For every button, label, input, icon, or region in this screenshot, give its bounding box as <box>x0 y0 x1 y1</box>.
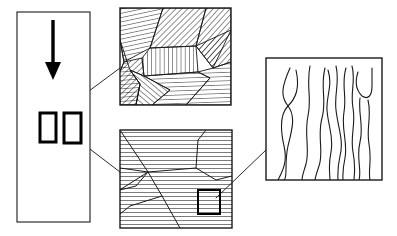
dislocation-panel-layer <box>266 58 382 180</box>
multiscale-microstructure-figure <box>0 0 397 236</box>
upper-grain-group <box>118 8 231 105</box>
lower-grain-group <box>104 130 232 228</box>
roi-left[interactable] <box>40 113 56 142</box>
figure-canvas <box>0 0 397 236</box>
roi-right[interactable] <box>64 113 81 143</box>
specimen-panel-layer <box>17 12 90 222</box>
lower-grain-panel-layer <box>104 130 232 228</box>
grain-4 <box>142 46 198 76</box>
upper-grain-panel-layer <box>118 8 231 105</box>
